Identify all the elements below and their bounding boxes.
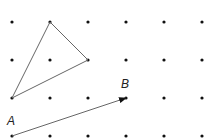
grid-dot [162, 96, 165, 99]
grid-dot [124, 134, 127, 137]
grid-dot [48, 96, 51, 99]
grid-dot [10, 58, 13, 61]
grid-dot [200, 134, 203, 137]
grid-dot [86, 96, 89, 99]
grid-dot [48, 134, 51, 137]
grid-dot [162, 134, 165, 137]
grid-dot [200, 96, 203, 99]
grid-dot [124, 58, 127, 61]
grid-dot [162, 20, 165, 23]
grid-dot [200, 20, 203, 23]
grid-dot [86, 134, 89, 137]
point-b-label: B [121, 77, 129, 91]
grid-dots [10, 20, 203, 137]
vector-ab-arrow [12, 98, 126, 136]
grid-dot [162, 58, 165, 61]
grid-dot [124, 20, 127, 23]
point-a-label: A [6, 114, 15, 128]
dot-grid-diagram: A B [0, 0, 211, 139]
grid-dot [200, 58, 203, 61]
grid-dot [10, 20, 13, 23]
grid-dot [86, 20, 89, 23]
grid-dot [48, 58, 51, 61]
